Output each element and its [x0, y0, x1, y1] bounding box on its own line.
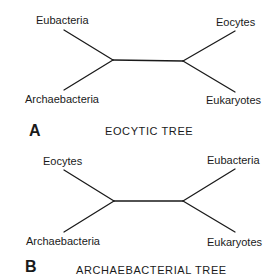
branch-b-bottom-left	[64, 201, 114, 232]
leaf-label-a-eocytes: Eocytes	[216, 16, 255, 28]
branch-a-top-right	[183, 31, 235, 61]
leaf-label-b-eubacteria: Eubacteria	[207, 154, 260, 166]
branch-a-internal	[113, 60, 183, 61]
branch-b-top-right	[183, 169, 235, 201]
panel-title-a: EOCYTIC TREE	[105, 125, 193, 137]
leaf-label-b-eukaryotes: Eukaryotes	[207, 236, 262, 248]
panel-title-b: ARCHAEBACTERIAL TREE	[76, 264, 227, 276]
branch-b-bottom-right	[183, 201, 235, 232]
branch-a-bottom-left	[64, 60, 113, 90]
leaf-label-b-eocytes: Eocytes	[43, 155, 82, 167]
branch-b-top-left	[64, 170, 114, 201]
panel-letter-b: B	[25, 259, 37, 275]
leaf-label-a-eubacteria: Eubacteria	[36, 14, 89, 26]
leaf-label-b-archaebacteria: Archaebacteria	[26, 235, 100, 247]
branch-a-bottom-right	[183, 61, 235, 92]
panel-letter-a: A	[29, 123, 41, 139]
leaf-label-a-archaebacteria: Archaebacteria	[25, 93, 99, 105]
leaf-label-a-eukaryotes: Eukaryotes	[206, 94, 261, 106]
branch-a-top-left	[64, 30, 113, 60]
